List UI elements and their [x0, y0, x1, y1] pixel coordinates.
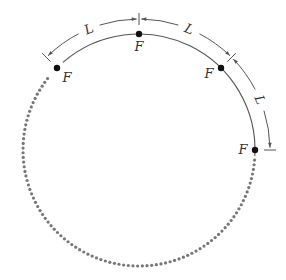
dot	[244, 195, 247, 198]
dot	[25, 179, 28, 182]
dot	[164, 261, 167, 264]
dot	[217, 233, 220, 236]
dot	[131, 264, 134, 267]
dimension-arc	[199, 34, 230, 56]
dot	[32, 197, 35, 200]
dot	[206, 242, 209, 245]
dot	[23, 170, 26, 173]
dot	[250, 177, 253, 180]
dot	[247, 186, 250, 189]
dot	[24, 123, 27, 126]
force-label-F: F	[61, 70, 72, 85]
dot	[252, 168, 255, 171]
circle-diagram: LLLFFFF	[0, 0, 286, 280]
dot	[63, 237, 66, 240]
dot	[28, 188, 31, 191]
dot	[145, 264, 148, 267]
dot	[22, 161, 25, 164]
dot	[113, 262, 116, 265]
dot	[43, 81, 46, 84]
dot	[159, 262, 162, 265]
dot	[82, 250, 85, 253]
dot	[86, 253, 89, 256]
dot	[27, 114, 30, 117]
dimension-arc	[233, 59, 255, 90]
dot	[224, 226, 227, 229]
force-label-F: F	[204, 66, 215, 81]
dot	[38, 209, 41, 212]
dot	[227, 223, 230, 226]
dot	[23, 165, 26, 168]
dot	[30, 192, 33, 195]
dimension-arrowhead	[132, 17, 137, 21]
dimension-arc	[141, 19, 178, 25]
dot	[22, 142, 25, 145]
dot	[56, 231, 59, 234]
dot	[230, 219, 233, 222]
dot	[182, 256, 185, 259]
dimension-arc	[48, 34, 79, 56]
dot	[117, 263, 120, 266]
dot	[74, 246, 77, 249]
dot	[49, 224, 52, 227]
dotted-arc	[21, 77, 256, 268]
dot	[34, 201, 37, 204]
dot	[249, 181, 252, 184]
dot	[136, 264, 139, 267]
force-points	[54, 31, 258, 153]
dot	[252, 163, 255, 166]
dot	[168, 260, 171, 263]
dot	[23, 132, 26, 135]
dot	[220, 230, 223, 233]
dot	[21, 146, 24, 149]
dot	[210, 239, 213, 242]
dot	[186, 254, 189, 257]
dot	[214, 236, 217, 239]
dot	[194, 249, 197, 252]
length-label-L: L	[181, 20, 196, 38]
dot	[38, 89, 41, 92]
dot	[21, 151, 24, 154]
force-label-F: F	[237, 142, 248, 157]
dot	[34, 97, 37, 100]
dot	[41, 213, 44, 216]
dot	[59, 234, 62, 237]
dot	[253, 159, 256, 162]
dot	[24, 174, 27, 177]
length-label-L: L	[251, 92, 269, 107]
force-point	[136, 31, 142, 37]
dot	[22, 137, 25, 140]
dimension-arrowhead	[141, 17, 146, 21]
length-label-L: L	[81, 20, 96, 38]
force-point	[252, 147, 258, 153]
dot	[53, 228, 56, 231]
dot	[46, 77, 49, 80]
dot	[27, 183, 30, 186]
dot	[242, 199, 245, 202]
dot	[141, 264, 144, 267]
dot	[91, 255, 94, 258]
dot	[30, 105, 33, 108]
dot	[46, 220, 49, 223]
dot	[78, 248, 81, 251]
dot	[246, 190, 249, 193]
dimension-arc	[100, 19, 137, 25]
dot	[95, 256, 98, 259]
dimension-arrowhead	[268, 143, 272, 148]
dot	[122, 263, 125, 266]
dot	[66, 240, 69, 243]
dimension-arcs	[42, 13, 276, 150]
dot	[198, 247, 201, 250]
dot	[41, 85, 44, 88]
dot	[190, 252, 193, 255]
dot	[70, 243, 73, 246]
dot	[232, 215, 235, 218]
dot	[36, 93, 39, 96]
dot	[235, 211, 238, 214]
dot	[36, 205, 39, 208]
force-point	[54, 65, 60, 71]
dot	[237, 207, 240, 210]
dot	[104, 259, 107, 262]
dot	[127, 264, 130, 267]
dot	[150, 264, 153, 267]
